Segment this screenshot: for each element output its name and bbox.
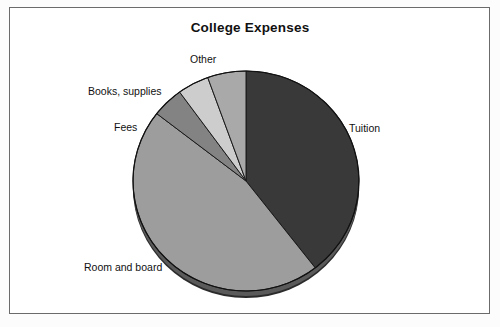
pie-label-tuition: Tuition [349,123,380,135]
screenshot-root: College Expenses Tuition Othe [0,0,500,327]
pie-label-books-supplies: Books, supplies [88,86,162,98]
pie-label-fees: Fees [114,122,137,134]
pie-label-room-and-board: Room and board [84,262,162,274]
pie-label-other: Other [190,54,216,66]
pie-slice-group [133,71,359,291]
pie-chart: Tuition Other Books, supplies Fees Room … [0,0,500,327]
pie-chart-svg [0,0,500,327]
